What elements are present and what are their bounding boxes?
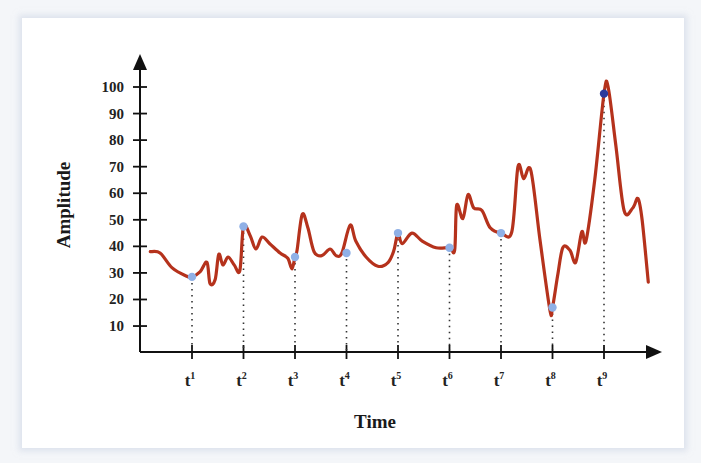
y-axis-arrow-icon [133,54,147,70]
y-tick-label: 50 [109,212,124,228]
y-tick-label: 20 [109,291,124,307]
x-tick-label: t9 [597,370,608,390]
x-tick-label: t8 [545,370,556,390]
x-tick-label: t7 [494,370,505,390]
y-tick-label: 70 [109,159,124,175]
y-tick-label: 100 [102,79,125,95]
amplitude-time-chart: 102030405060708090100 t1t2t3t4t5t6t7t8t9… [0,0,701,463]
data-point-marker [548,303,556,311]
y-tick-label: 90 [109,106,124,122]
x-tick-label: t5 [391,370,402,390]
x-tick-label-sup: 3 [293,370,298,381]
data-point-marker [497,229,505,237]
y-tick-label: 80 [109,132,124,148]
data-point-marker [445,243,453,251]
x-axis [140,345,662,359]
y-tick-label: 30 [109,265,124,281]
x-tick-label-sup: 5 [396,370,401,381]
x-tick-label: t4 [339,370,350,390]
x-tick-label-sup: 2 [242,370,247,381]
x-tick-label-sup: 8 [551,370,556,381]
x-axis-title: Time [354,411,396,432]
data-point-marker [394,229,402,237]
y-tick-label: 40 [109,238,124,254]
data-point-marker [342,249,350,257]
y-tick-label: 60 [109,185,124,201]
y-tick-label: 10 [109,318,124,334]
x-tick-label: t6 [442,370,453,390]
data-point-marker [188,273,196,281]
x-tick-label: t2 [236,370,247,390]
x-tick-label-sup: 4 [345,370,350,381]
x-tick-label-sup: 1 [190,370,195,381]
x-tick-label: t1 [185,370,196,390]
y-axis-title: Amplitude [53,162,74,249]
data-point-marker [291,253,299,261]
x-tick-label-sup: 7 [499,370,504,381]
y-axis [133,54,147,352]
x-tick-label-sup: 9 [602,370,607,381]
x-tick-label-sup: 6 [448,370,453,381]
data-point-marker [239,222,247,230]
data-point-marker [600,89,608,97]
x-tick-label: t3 [288,370,299,390]
signal-line [150,81,648,316]
x-axis-arrow-icon [646,345,662,359]
